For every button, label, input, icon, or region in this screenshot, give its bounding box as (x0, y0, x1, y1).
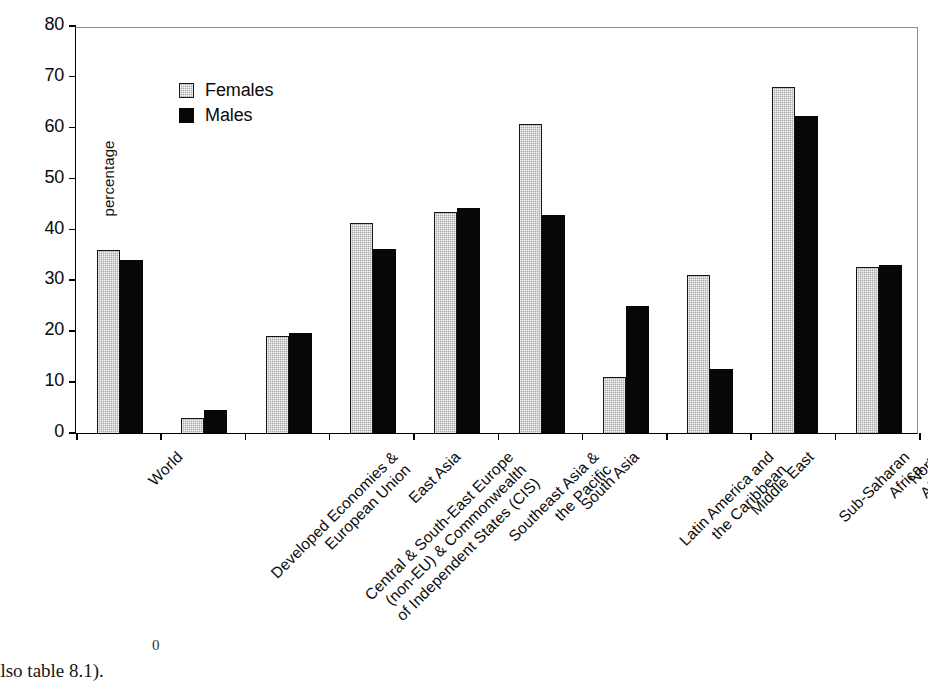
y-tick-mark (69, 25, 76, 27)
y-tick-mark (69, 432, 76, 434)
y-tick-mark (69, 127, 76, 129)
y-tick-20: 20 (34, 330, 76, 331)
y-tick-40: 40 (34, 229, 76, 230)
y-tick-mark (69, 178, 76, 180)
y-tick-30: 30 (34, 279, 76, 280)
x-tick-mark (413, 433, 415, 440)
y-tick-0: 0 (34, 432, 76, 433)
bar-males (542, 215, 565, 433)
bar-females (856, 267, 879, 433)
stray-ink-mark: 0 (152, 637, 160, 654)
y-tick-label: 60 (44, 116, 64, 137)
bar-males (710, 369, 733, 433)
y-tick-label: 10 (44, 370, 64, 391)
bar-females (350, 223, 373, 433)
y-tick-mark (69, 330, 76, 332)
bar-males (373, 249, 396, 433)
legend-swatch-males-icon (179, 108, 194, 123)
bar-group (603, 28, 649, 433)
bar-females (266, 336, 289, 433)
bar-group (856, 28, 902, 433)
y-tick-mark (69, 76, 76, 78)
legend: Females Males (179, 78, 273, 128)
x-tick-mark (160, 433, 162, 440)
y-tick-mark (69, 229, 76, 231)
x-tick-mark (329, 433, 331, 440)
bar-males (795, 116, 818, 433)
bar-females (181, 418, 204, 433)
bar-females (434, 212, 457, 433)
y-tick-label: 30 (44, 268, 64, 289)
x-tick-mark (76, 433, 78, 440)
legend-swatch-females-icon (179, 83, 194, 98)
bar-males (626, 306, 649, 433)
bar-group (97, 28, 143, 433)
y-tick-label: 20 (44, 319, 64, 340)
bar-females (603, 377, 626, 433)
bar-females (772, 87, 795, 433)
legend-item-males: Males (179, 103, 273, 128)
y-tick-10: 10 (34, 381, 76, 382)
bar-males (457, 208, 480, 433)
x-tick-mark (582, 433, 584, 440)
bar-females (97, 250, 120, 433)
y-tick-mark (69, 381, 76, 383)
bar-group (772, 28, 818, 433)
bar-females (519, 124, 542, 433)
x-tick-mark (498, 433, 500, 440)
x-tick-mark (750, 433, 752, 440)
bar-group (519, 28, 565, 433)
plot-area: percentage 01020304050607080 Females Mal… (75, 27, 918, 434)
bar-males (289, 333, 312, 433)
bar-females (687, 275, 710, 433)
bar-group (687, 28, 733, 433)
y-tick-70: 70 (34, 76, 76, 77)
y-tick-label: 80 (44, 14, 64, 35)
legend-label-females: Females (205, 80, 273, 101)
x-axis-label: Sub-Saharan Africa (835, 448, 926, 539)
x-tick-mark (245, 433, 247, 440)
legend-label-males: Males (205, 105, 253, 126)
y-tick-label: 70 (44, 65, 64, 86)
y-tick-label: 50 (44, 167, 64, 188)
x-tick-mark (666, 433, 668, 440)
y-tick-60: 60 (34, 127, 76, 128)
bar-group (434, 28, 480, 433)
y-tick-label: 0 (54, 421, 64, 442)
legend-item-females: Females (179, 78, 273, 103)
x-tick-mark (919, 433, 921, 440)
x-tick-mark (835, 433, 837, 440)
bar-males (879, 265, 902, 433)
x-axis-label: World (145, 448, 187, 490)
bar-group (350, 28, 396, 433)
y-tick-mark (69, 279, 76, 281)
bar-males (204, 410, 227, 433)
chart-page: percentage 01020304050607080 Females Mal… (0, 0, 928, 690)
y-tick-80: 80 (34, 25, 76, 26)
y-tick-50: 50 (34, 178, 76, 179)
figure-caption: also table 8.1). (0, 660, 104, 682)
bar-males (120, 260, 143, 433)
y-tick-label: 40 (44, 218, 64, 239)
